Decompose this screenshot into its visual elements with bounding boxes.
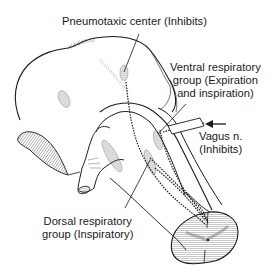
pons-oval bbox=[56, 89, 73, 110]
leader-dorsal bbox=[125, 160, 150, 208]
ventral-respiratory-group-region bbox=[152, 129, 165, 150]
pneumotaxic-center-region bbox=[120, 65, 128, 81]
label-vagus-nerve: Vagus n. (Inhibits) bbox=[199, 130, 242, 156]
label-vagus-line1: Vagus n. bbox=[199, 130, 242, 143]
label-vagus-line2: (Inhibits) bbox=[199, 143, 242, 156]
label-ventral-respiratory-group: Ventral respiratory group (Expiration an… bbox=[170, 61, 261, 100]
left-cut-lobe bbox=[18, 132, 68, 175]
label-dorsal-line2: group (Inspiratory) bbox=[42, 228, 133, 241]
label-ventral-line3: and inspiration) bbox=[170, 87, 261, 100]
vagus-arrow-icon bbox=[205, 120, 226, 128]
leader-pneumotaxic bbox=[124, 34, 139, 72]
label-dorsal-respiratory-group: Dorsal respiratory group (Inspiratory) bbox=[42, 215, 133, 241]
label-ventral-line2: group (Expiration bbox=[170, 74, 261, 87]
label-ventral-line1: Ventral respiratory bbox=[170, 61, 261, 74]
label-pneumotaxic-text: Pneumotaxic center (Inhibits) bbox=[62, 15, 207, 27]
pons-outline bbox=[15, 37, 175, 121]
label-pneumotaxic-center: Pneumotaxic center (Inhibits) bbox=[62, 15, 207, 28]
label-dorsal-line1: Dorsal respiratory bbox=[42, 215, 133, 228]
spinal-cord-cross-section bbox=[171, 212, 238, 264]
